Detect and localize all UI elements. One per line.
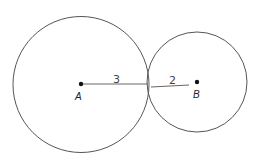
radius-b-label: 2 — [169, 74, 176, 87]
tangent-circles-diagram: A B 3 2 — [0, 0, 259, 162]
center-point-b — [195, 80, 199, 84]
radius-a-label: 3 — [113, 73, 120, 86]
point-b-label: B — [193, 89, 200, 100]
center-point-a — [79, 82, 83, 86]
point-a-label: A — [74, 91, 82, 102]
